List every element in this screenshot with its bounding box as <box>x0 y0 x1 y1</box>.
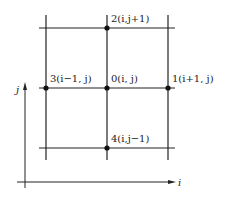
j-axis-arrow-icon <box>23 82 27 90</box>
node-1-label: 1(i+1, j) <box>172 73 214 84</box>
node-3-label: 3(i−1, j) <box>50 73 92 84</box>
stencil-diagram: 0(i, j) 1(i+1, j) 2(i,j+1) 3(i−1, j) 4(i… <box>0 0 238 203</box>
j-axis-label: j <box>14 84 19 95</box>
i-axis-arrow-icon <box>168 180 176 184</box>
i-axis-label: i <box>178 177 181 188</box>
node-2-label: 2(i,j+1) <box>111 13 149 24</box>
node-2 <box>104 25 109 30</box>
axes <box>17 82 176 188</box>
node-1 <box>165 85 170 90</box>
node-4-label: 4(i,j−1) <box>111 133 149 144</box>
node-0-label: 0(i, j) <box>111 73 138 84</box>
node-0 <box>104 85 109 90</box>
node-3 <box>43 85 48 90</box>
node-4 <box>104 145 109 150</box>
